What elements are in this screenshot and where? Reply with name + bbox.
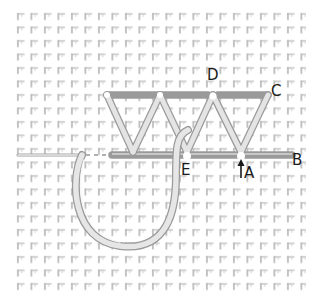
label-b: B (292, 153, 302, 168)
label-c: C (271, 84, 281, 99)
label-d: D (207, 68, 219, 83)
label-a: A (244, 166, 254, 181)
fabric-grid (14, 8, 306, 292)
label-e: E (181, 163, 190, 178)
stitch-diagram: D C E A B (0, 0, 324, 297)
bottom-stitches (112, 154, 292, 155)
diagram-canvas (0, 0, 324, 297)
